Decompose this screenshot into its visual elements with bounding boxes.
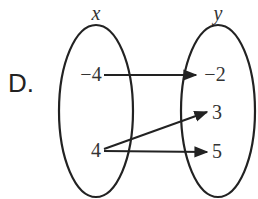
mapping-diagram: x −4 4 y −2 3 5	[0, 0, 258, 199]
domain-element: 4	[91, 139, 101, 161]
domain-element: −4	[80, 63, 101, 85]
mapping-arrow	[104, 112, 207, 149]
mapping-arrow	[104, 151, 207, 152]
domain-ellipse	[59, 25, 133, 197]
range-label: y	[212, 2, 223, 25]
range-element: −2	[204, 63, 225, 85]
domain-label: x	[91, 2, 101, 24]
domain-set: x −4 4	[59, 2, 133, 197]
range-set: y −2 3 5	[181, 2, 255, 197]
mappings	[104, 75, 207, 152]
range-element: 5	[212, 140, 222, 162]
range-element: 3	[212, 101, 222, 123]
